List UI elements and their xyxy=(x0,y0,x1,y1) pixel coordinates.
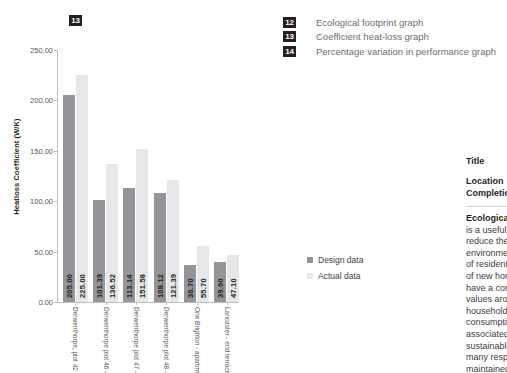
heatloss-coefficient-chart: 13 Heatloss Coefficient (W/K) 0.0050.001… xyxy=(0,12,300,373)
side-panel-body-lead: Ecological xyxy=(466,213,507,223)
bar-design: 39.60 xyxy=(214,262,226,302)
legend-swatch-actual xyxy=(307,273,313,279)
bar-actual: 47.10 xyxy=(227,255,239,302)
bar-value-label: 39.60 xyxy=(216,278,225,298)
bar-value-label: 205.00 xyxy=(64,274,73,298)
y-axis-title: Heatloss Coefficient (W/K) xyxy=(12,97,21,237)
bar-design: 113.14 xyxy=(123,188,135,302)
bar-group: 205.00225.00 xyxy=(63,50,88,302)
side-panel-body: Ecological footprinting is a useful way … xyxy=(466,213,507,373)
y-axis-tick-mark xyxy=(54,302,57,303)
y-axis-tick-label: 50.00 xyxy=(9,247,53,256)
legend-item-actual-data: Actual data xyxy=(307,268,363,284)
bar-value-label: 151.58 xyxy=(138,274,147,298)
plot-area: 0.0050.00100.00150.00200.00250.00 205.00… xyxy=(57,50,239,302)
bar-value-label: 55.70 xyxy=(199,278,208,298)
bar-design: 36.70 xyxy=(184,265,196,302)
y-axis-tick-mark xyxy=(54,100,57,101)
bar-value-label: 36.70 xyxy=(186,278,195,298)
figure-index-item: 14 Percentage variation in performance g… xyxy=(283,44,507,59)
bar-actual: 55.70 xyxy=(197,246,209,302)
side-panel-completion: Completion xyxy=(466,187,507,199)
x-axis-category-label: One Brighton - apartment (3) xyxy=(193,307,201,373)
y-axis-tick-label: 100.00 xyxy=(9,197,53,206)
legend-label-actual: Actual data xyxy=(318,271,361,281)
x-axis-tick-mark xyxy=(197,302,198,305)
bar-group: 101.39136.52 xyxy=(93,50,118,302)
y-axis-tick-mark xyxy=(54,151,57,152)
chart-number-badge: 13 xyxy=(69,15,82,26)
y-axis-line xyxy=(57,50,58,302)
bar-value-label: 225.00 xyxy=(77,274,86,298)
y-axis-tick-label: 0.00 xyxy=(9,298,53,307)
bar-actual: 121.39 xyxy=(167,180,179,302)
bar-actual: 151.58 xyxy=(136,149,148,302)
chart-legend: Design data Actual data xyxy=(307,252,363,284)
x-axis-category-label: Derwenthorpe plot 46 - mid terrace (2) xyxy=(102,307,110,373)
side-panel-title: Title xyxy=(466,155,507,167)
x-axis-tick-mark xyxy=(106,302,107,305)
x-axis-tick-mark xyxy=(227,302,228,305)
bar-value-label: 121.39 xyxy=(168,274,177,298)
y-axis-tick-label: 150.00 xyxy=(9,146,53,155)
x-axis-line xyxy=(57,302,239,303)
side-panel-body-text: footprinting is a useful way to reduce t… xyxy=(466,213,507,373)
figure-index-label: Ecological footprint graph xyxy=(316,17,423,28)
bar-value-label: 47.10 xyxy=(229,278,238,298)
side-panel-divider xyxy=(466,206,507,207)
x-axis-tick-mark xyxy=(75,302,76,305)
bar-value-label: 113.14 xyxy=(125,274,134,298)
x-axis-tick-mark xyxy=(136,302,137,305)
legend-label-design: Design data xyxy=(318,255,363,265)
figure-index-item: 13 Coefficient heat-loss graph xyxy=(283,30,507,45)
bar-group: 36.7055.70 xyxy=(184,50,209,302)
figure-index-list: 12 Ecological footprint graph 13 Coeffic… xyxy=(283,15,507,59)
bar-value-label: 101.39 xyxy=(95,274,104,298)
bar-group: 113.14151.58 xyxy=(123,50,148,302)
figure-page: 12 Ecological footprint graph 13 Coeffic… xyxy=(0,0,507,373)
side-text-panel: Title Location Completion Ecological foo… xyxy=(466,155,507,373)
figure-index-label: Percentage variation in performance grap… xyxy=(316,46,496,57)
bar-design: 101.39 xyxy=(93,200,105,302)
y-axis-tick-label: 250.00 xyxy=(9,46,53,55)
y-axis-tick-mark xyxy=(54,252,57,253)
x-axis-category-label: Derwenthorpe, plot 42 - detached (1) xyxy=(71,307,79,373)
legend-item-design-data: Design data xyxy=(307,252,363,268)
x-axis-tick-mark xyxy=(166,302,167,305)
legend-swatch-design xyxy=(307,257,313,263)
y-axis-tick-mark xyxy=(54,50,57,51)
figure-index-label: Coefficient heat-loss graph xyxy=(316,31,429,42)
bar-design: 108.12 xyxy=(154,193,166,302)
x-axis-category-label: Lancaster - end terrace (4) xyxy=(223,307,231,373)
bar-value-label: 136.52 xyxy=(108,274,117,298)
bar-value-label: 108.12 xyxy=(155,274,164,298)
bar-actual: 136.52 xyxy=(106,164,118,302)
y-axis-tick-label: 200.00 xyxy=(9,96,53,105)
bar-group: 108.12121.39 xyxy=(154,50,179,302)
y-axis-tick-mark xyxy=(54,201,57,202)
bar-actual: 225.00 xyxy=(76,75,88,302)
bar-group: 39.6047.10 xyxy=(214,50,239,302)
x-axis-category-label: Derwenthorpe plot 48 - end terrace (2) xyxy=(162,307,170,373)
bar-design: 205.00 xyxy=(63,95,75,302)
figure-index-item: 12 Ecological footprint graph xyxy=(283,15,507,30)
x-axis-category-label: Derwenthorpe plot 47 - end terrace (2) xyxy=(132,307,140,373)
side-panel-location: Location xyxy=(466,175,507,187)
